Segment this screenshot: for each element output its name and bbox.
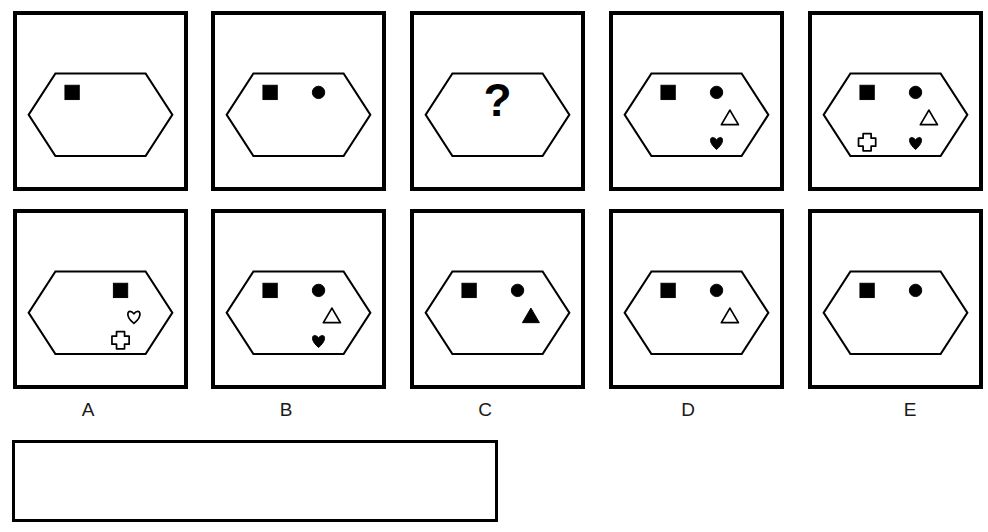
option-panel-b-inner bbox=[215, 213, 382, 385]
circle-filled-icon bbox=[909, 86, 921, 98]
option-panel-d-inner bbox=[613, 213, 780, 385]
option-label-e: E bbox=[890, 400, 930, 419]
option-label-b: B bbox=[266, 400, 306, 419]
stimulus-panel-4 bbox=[609, 11, 784, 191]
stimulus-panel-1 bbox=[13, 11, 188, 191]
question-mark: ? bbox=[414, 15, 581, 187]
square-filled-icon bbox=[263, 85, 277, 99]
hexagon-icon bbox=[414, 213, 581, 385]
stimulus-panel-2 bbox=[211, 11, 386, 191]
circle-filled-icon bbox=[710, 86, 722, 98]
option-label-d: D bbox=[668, 400, 708, 419]
hexagon-outline bbox=[824, 74, 968, 156]
hexagon-outline bbox=[227, 74, 371, 156]
square-filled-icon bbox=[860, 85, 874, 99]
hexagon-icon bbox=[215, 15, 382, 187]
option-label-c: C bbox=[465, 400, 505, 419]
hexagon-outline bbox=[625, 272, 769, 354]
hexagon-outline bbox=[625, 74, 769, 156]
option-panel-b[interactable] bbox=[211, 209, 386, 389]
hexagon-icon bbox=[812, 15, 979, 187]
circle-filled-icon bbox=[909, 284, 921, 296]
hexagon-icon bbox=[17, 213, 184, 385]
option-panel-a-inner bbox=[17, 213, 184, 385]
hexagon-icon bbox=[613, 15, 780, 187]
option-panel-e-inner bbox=[812, 213, 979, 385]
stimulus-panel-3: ? bbox=[410, 11, 585, 191]
hexagon-icon bbox=[613, 213, 780, 385]
hexagon-outline bbox=[29, 272, 173, 354]
option-panel-a[interactable] bbox=[13, 209, 188, 389]
option-label-a: A bbox=[68, 400, 108, 419]
square-filled-icon bbox=[263, 283, 277, 297]
stimulus-panel-2-inner bbox=[215, 15, 382, 187]
stimulus-panel-3-inner: ? bbox=[414, 15, 581, 187]
hexagon-outline bbox=[824, 272, 968, 354]
hexagon-icon bbox=[215, 213, 382, 385]
circle-filled-icon bbox=[511, 284, 523, 296]
hexagon-outline bbox=[227, 272, 371, 354]
puzzle-root: ?ABCDE bbox=[0, 0, 988, 532]
stimulus-panel-1-inner bbox=[17, 15, 184, 187]
square-filled-icon bbox=[860, 283, 874, 297]
option-panel-c-inner bbox=[414, 213, 581, 385]
answer-box[interactable] bbox=[12, 440, 498, 522]
hexagon-icon bbox=[812, 213, 979, 385]
hexagon-outline bbox=[426, 272, 570, 354]
square-filled-icon bbox=[113, 283, 127, 297]
option-panel-e[interactable] bbox=[808, 209, 983, 389]
hexagon-icon bbox=[17, 15, 184, 187]
square-filled-icon bbox=[65, 85, 79, 99]
hexagon-outline bbox=[29, 74, 173, 156]
circle-filled-icon bbox=[710, 284, 722, 296]
stimulus-panel-5-inner bbox=[812, 15, 979, 187]
circle-filled-icon bbox=[312, 86, 324, 98]
square-filled-icon bbox=[661, 85, 675, 99]
stimulus-panel-5 bbox=[808, 11, 983, 191]
square-filled-icon bbox=[661, 283, 675, 297]
option-panel-c[interactable] bbox=[410, 209, 585, 389]
option-panel-d[interactable] bbox=[609, 209, 784, 389]
square-filled-icon bbox=[462, 283, 476, 297]
circle-filled-icon bbox=[312, 284, 324, 296]
stimulus-panel-4-inner bbox=[613, 15, 780, 187]
